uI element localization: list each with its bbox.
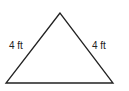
right-side-label: 4 ft: [92, 41, 106, 51]
left-side-label: 4 ft: [9, 41, 23, 51]
